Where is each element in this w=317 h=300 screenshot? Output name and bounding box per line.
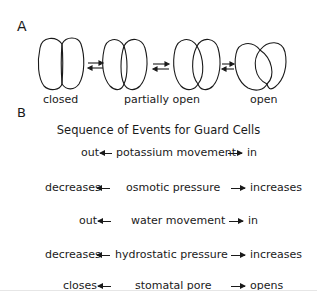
row-center-label: osmotic pressure [126, 181, 220, 194]
arrow-left-icon [98, 221, 111, 222]
row-left-value: out [81, 146, 99, 159]
row-center-label: potassium movement [116, 146, 236, 159]
event-row-hydrostatic: decreases hydrostatic pressure increases [0, 248, 317, 264]
equilibrium-arrows-2 [153, 62, 169, 71]
event-row-water: out water movement in [0, 214, 317, 230]
row-left-value: out [79, 214, 97, 227]
row-right-value: increases [250, 248, 302, 261]
arrow-right-icon [231, 255, 245, 256]
row-left-value: decreases [45, 181, 101, 194]
stomata-partially-open [103, 39, 147, 89]
state-label-partially-open: partially open [124, 93, 200, 106]
arrow-left-icon [98, 286, 111, 287]
panel-b-label: B [17, 105, 26, 120]
row-right-value: increases [250, 181, 302, 194]
state-label-closed: closed [43, 93, 78, 106]
stomata-closed [38, 38, 83, 90]
arrow-right-icon [229, 221, 243, 222]
arrow-right-icon [231, 188, 245, 189]
row-right-value: in [248, 214, 258, 227]
arrow-left-icon [97, 255, 110, 256]
arrow-right-icon [231, 286, 245, 287]
faded-caption-strip [0, 290, 317, 300]
arrow-right-icon [228, 153, 242, 154]
arrow-left-icon [100, 153, 112, 154]
arrow-left-icon [97, 188, 110, 189]
stomata-open [235, 43, 286, 90]
state-label-open: open [250, 93, 277, 106]
row-left-value: decreases [45, 248, 101, 261]
row-center-label: hydrostatic pressure [115, 248, 228, 261]
row-center-label: water movement [131, 214, 225, 227]
row-right-value: in [247, 146, 257, 159]
event-row-potassium: out potassium movement in [0, 146, 317, 162]
event-row-osmotic: decreases osmotic pressure increases [0, 181, 317, 197]
stomata-diagram [0, 30, 317, 95]
sequence-title: Sequence of Events for Guard Cells [0, 123, 317, 137]
equilibrium-arrows-3 [222, 62, 234, 71]
equilibrium-arrows-1 [88, 61, 103, 70]
stomata-partially-open-2 [174, 39, 220, 89]
